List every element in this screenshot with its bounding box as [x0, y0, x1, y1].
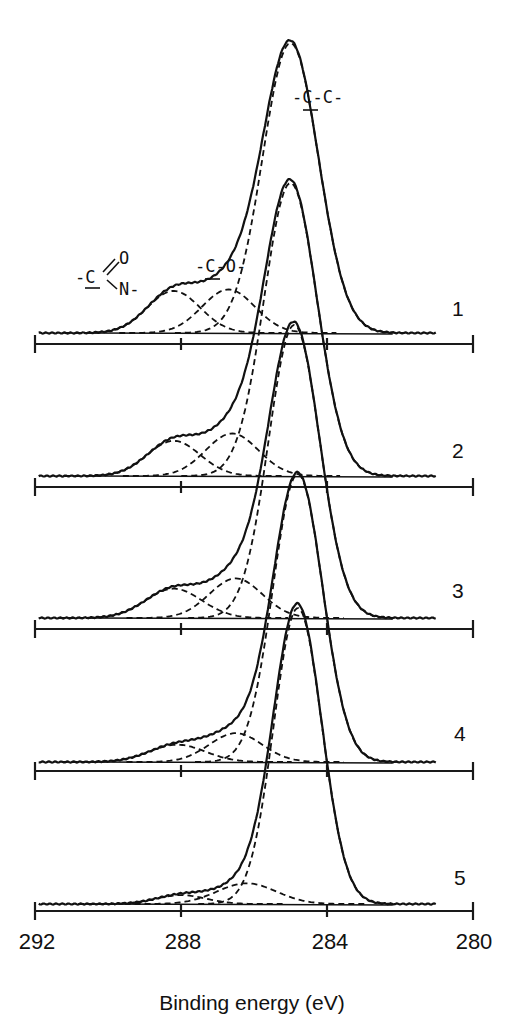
spectrum-4 — [35, 472, 473, 780]
spectra-layer — [35, 40, 473, 920]
x-tick-label-288: 288 — [165, 929, 202, 954]
annotation-cc: -C-C- — [292, 87, 343, 110]
spectrum-label-4: 4 — [454, 722, 466, 745]
envelope-curve — [39, 603, 436, 905]
x-tick-label-284: 284 — [312, 929, 349, 954]
amide-single-bond — [107, 280, 117, 289]
x-axis-title: Binding energy (eV) — [159, 991, 345, 1014]
background-baseline — [86, 476, 393, 477]
cc-bond-label: -C-C- — [292, 87, 343, 107]
amide-c-label: -C — [75, 267, 95, 287]
spectrum-label-3: 3 — [452, 579, 464, 602]
spectrum-3 — [35, 322, 473, 638]
amide-double-bond-1 — [103, 259, 115, 272]
spectrum-label-1: 1 — [452, 297, 464, 320]
x-tick-label-280: 280 — [456, 929, 493, 954]
x-tick-label-292: 292 — [19, 929, 56, 954]
xps-c1s-spectra-chart: -C-C- -C-O- -C O N- 1 2 3 4 5 292 288 28… — [0, 0, 518, 1033]
amide-n-label: N- — [119, 279, 139, 299]
spectrum-label-2: 2 — [452, 439, 464, 462]
envelope-curve — [39, 322, 436, 619]
annotation-co: -C-O- — [195, 256, 246, 279]
spectrum-1 — [35, 40, 473, 353]
component-peak-nco — [58, 589, 288, 618]
envelope-curve — [39, 179, 436, 477]
annotation-amide: -C O N- — [75, 248, 139, 299]
spectrum-label-5: 5 — [454, 866, 466, 889]
component-peak-co — [123, 434, 340, 477]
amide-double-bond-2 — [107, 262, 119, 275]
spectrum-2 — [35, 179, 473, 496]
co-bond-label: -C-O- — [195, 256, 246, 276]
component-peak-co — [125, 883, 368, 904]
component-peak-cc — [175, 43, 405, 333]
component-peak-nco — [65, 441, 282, 476]
component-peak-cc — [181, 183, 398, 476]
amide-o-label: O — [119, 248, 129, 268]
envelope-curve — [39, 40, 436, 334]
component-peak-nco — [65, 291, 282, 333]
